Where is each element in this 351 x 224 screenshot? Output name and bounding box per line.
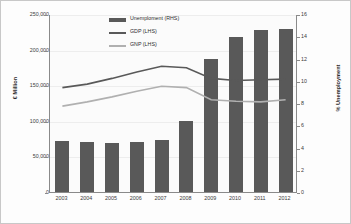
legend-item-label: GDP (LHS) <box>130 28 157 35</box>
y-axis-right-tickmark <box>297 193 300 194</box>
chart-container: € Million % Unemployment 250,000200,0001… <box>0 0 351 224</box>
y-axis-left-tickmark <box>45 122 48 123</box>
x-axis-tick-label-2008: 2008 <box>173 196 198 201</box>
x-axis-tick-label-2011: 2011 <box>247 196 272 201</box>
legend-item-label: Unemploment (RHS) <box>130 15 179 22</box>
y-axis-left-tick-label: 0 <box>5 190 49 195</box>
y-axis-left-tick-label: 100,000 <box>5 119 49 124</box>
chart-legend: Unemploment (RHS)GDP (LHS)GNP (LHS) <box>109 14 205 53</box>
y-axis-left-tick-label: 200,000 <box>5 48 49 53</box>
x-axis-tick-label-2005: 2005 <box>99 196 124 201</box>
y-axis-right-tick-label: 12 <box>301 57 321 62</box>
y-axis-right-title: % Unemployment <box>335 57 341 119</box>
y-axis-right-tick-label: 4 <box>301 146 321 151</box>
y-axis-left-tickmark <box>45 15 48 16</box>
gnp-line <box>62 86 285 106</box>
y-axis-left-tick-label: 150,000 <box>5 83 49 88</box>
y-axis-right-tickmark <box>297 149 300 150</box>
x-axis-tick-label-2003: 2003 <box>49 196 74 201</box>
legend-item[interactable]: Unemploment (RHS) <box>109 14 205 27</box>
x-axis-tick-label-2007: 2007 <box>148 196 173 201</box>
x-axis-tick-label-2006: 2006 <box>123 196 148 201</box>
y-axis-right-tickmark <box>297 104 300 105</box>
y-axis-left-tick-label: 250,000 <box>5 12 49 17</box>
legend-line-swatch-icon <box>109 45 126 47</box>
legend-item-label: GNP (LHS) <box>130 41 157 48</box>
y-axis-right-tick-label: 8 <box>301 101 321 106</box>
y-axis-right-tick-label: 10 <box>301 79 321 84</box>
y-axis-right-tickmark <box>297 82 300 83</box>
y-axis-right-tick-label: 2 <box>301 168 321 173</box>
x-axis-tick-label-2012: 2012 <box>272 196 297 201</box>
y-axis-right-tickmark <box>297 15 300 16</box>
y-axis-right-tick-label: 6 <box>301 123 321 128</box>
legend-item[interactable]: GNP (LHS) <box>109 40 205 53</box>
x-axis-tick-label-2009: 2009 <box>198 196 223 201</box>
y-axis-right-tickmark <box>297 126 300 127</box>
y-axis-right-tick-label: 0 <box>301 190 321 195</box>
y-axis-right-tickmark <box>297 60 300 61</box>
y-axis-right-tickmark <box>297 37 300 38</box>
y-axis-left-tickmark <box>45 193 48 194</box>
legend-bar-swatch-icon <box>109 18 126 22</box>
y-axis-left-tickmark <box>45 157 48 158</box>
x-axis-tick-label-2010: 2010 <box>223 196 248 201</box>
y-axis-left-tickmark <box>45 51 48 52</box>
y-axis-right-tick-label: 16 <box>301 12 321 17</box>
gdp-line <box>62 66 285 87</box>
y-axis-right-tick-label: 14 <box>301 34 321 39</box>
x-axis-tick-label-2004: 2004 <box>74 196 99 201</box>
y-axis-left-tick-label: 50,000 <box>5 154 49 159</box>
y-axis-left-tickmark <box>45 86 48 87</box>
legend-line-swatch-icon <box>109 32 126 34</box>
y-axis-right-tickmark <box>297 171 300 172</box>
legend-item[interactable]: GDP (LHS) <box>109 27 205 40</box>
